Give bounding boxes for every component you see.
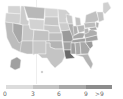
state-maine[interactable] [103, 2, 111, 14]
state-arizona[interactable] [20, 41, 33, 54]
legend-bin-3 [33, 85, 60, 89]
state-alaska[interactable] [10, 57, 21, 70]
legend-label-9: 9 [84, 90, 88, 97]
state-new-york[interactable] [85, 11, 99, 23]
legend-bin-6 [59, 85, 86, 89]
legend-bin-9 [86, 85, 113, 89]
state-kansas[interactable] [49, 33, 62, 41]
legend-label-0: 0 [3, 90, 7, 97]
legend-label-3: 3 [31, 90, 35, 97]
state-washington[interactable] [8, 6, 21, 14]
state-florida[interactable] [76, 54, 93, 69]
state-north-dakota[interactable] [45, 8, 58, 17]
state-michigan[interactable] [75, 17, 81, 26]
state-colorado[interactable] [33, 30, 49, 41]
state-wyoming[interactable] [29, 19, 44, 30]
state-arkansas[interactable] [63, 42, 72, 50]
legend-label-6: 6 [57, 90, 61, 97]
state-hawaii[interactable] [41, 71, 43, 73]
legend-label-gt9: >9 [95, 90, 104, 97]
us-choropleth-map[interactable] [0, 0, 123, 84]
state-new-jersey[interactable] [96, 22, 99, 28]
state-montana[interactable] [24, 6, 45, 19]
state-south-dakota[interactable] [44, 17, 59, 26]
state-new-mexico[interactable] [33, 41, 46, 55]
legend-bar [6, 85, 112, 89]
legend-bin-0 [6, 85, 33, 89]
